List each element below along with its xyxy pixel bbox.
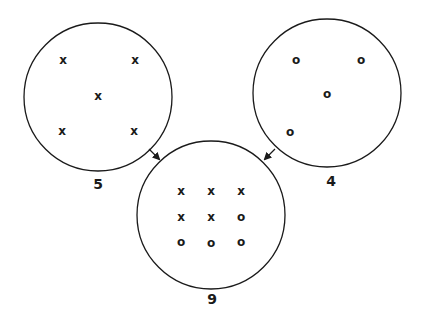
x-mark-icon: x bbox=[207, 211, 215, 223]
o-mark-icon: o bbox=[207, 237, 215, 249]
o-mark-icon: o bbox=[292, 54, 300, 66]
set-union-count-label: 9 bbox=[207, 292, 217, 306]
o-mark-icon: o bbox=[177, 236, 185, 248]
arrow-right-to-union-icon bbox=[265, 149, 275, 159]
o-mark-icon: o bbox=[237, 211, 245, 223]
x-mark-icon: x bbox=[131, 54, 139, 66]
x-mark-icon: x bbox=[59, 54, 67, 66]
set-x-count-label: 5 bbox=[93, 177, 103, 191]
x-mark-icon: x bbox=[207, 185, 215, 197]
x-mark-icon: x bbox=[237, 185, 245, 197]
set-union-diagram: 5xxxxx4oooo9xxxxxoooo bbox=[0, 0, 421, 320]
x-mark-icon: x bbox=[177, 185, 185, 197]
o-mark-icon: o bbox=[323, 88, 331, 100]
x-mark-icon: x bbox=[130, 125, 138, 137]
diagram-canvas bbox=[0, 0, 421, 320]
set-o-count-label: 4 bbox=[326, 174, 336, 188]
x-mark-icon: x bbox=[94, 90, 102, 102]
o-mark-icon: o bbox=[237, 236, 245, 248]
x-mark-icon: x bbox=[177, 211, 185, 223]
arrow-left-to-union-icon bbox=[149, 149, 159, 159]
o-mark-icon: o bbox=[357, 54, 365, 66]
x-mark-icon: x bbox=[58, 125, 66, 137]
o-mark-icon: o bbox=[286, 126, 294, 138]
